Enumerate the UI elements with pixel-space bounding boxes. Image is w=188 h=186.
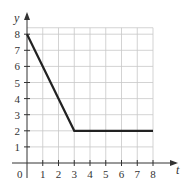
- grid: [27, 28, 153, 163]
- line-chart: 1234567812345678 t y 0: [0, 0, 188, 186]
- origin-label: 0: [17, 168, 23, 180]
- y-tick-label: 3: [15, 109, 21, 121]
- x-tick-label: 2: [56, 168, 62, 180]
- x-axis-label: t: [176, 163, 180, 177]
- x-tick-label: 8: [150, 168, 156, 180]
- y-tick-label: 8: [15, 28, 21, 40]
- x-tick-label: 7: [135, 168, 141, 180]
- x-tick-label: 1: [40, 168, 46, 180]
- x-tick-label: 3: [72, 168, 78, 180]
- y-tick-label: 5: [15, 77, 21, 89]
- y-axis-label: y: [13, 11, 20, 25]
- x-tick-label: 5: [103, 168, 109, 180]
- y-tick-label: 7: [15, 44, 21, 56]
- y-axis-arrow-icon: [24, 12, 30, 20]
- x-tick-label: 4: [87, 168, 93, 180]
- x-tick-label: 6: [119, 168, 125, 180]
- y-tick-label: 4: [15, 93, 21, 105]
- y-tick-label: 6: [15, 60, 21, 72]
- y-tick-label: 2: [15, 125, 21, 137]
- y-tick-label: 1: [15, 141, 21, 153]
